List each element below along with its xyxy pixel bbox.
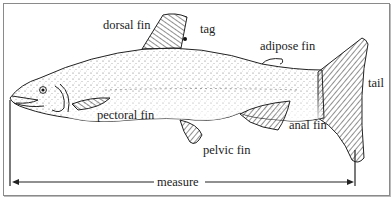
- adipose-fin-shape: [262, 59, 283, 64]
- arrow-left-icon: [12, 179, 19, 185]
- label-dorsal-fin: dorsal fin: [103, 19, 151, 32]
- label-adipose-fin: adipose fin: [260, 40, 315, 53]
- arrow-right-icon: [347, 179, 354, 185]
- tag-dot: [183, 37, 187, 41]
- label-tag: tag: [200, 23, 215, 36]
- label-tail: tail: [368, 77, 384, 90]
- label-pelvic-fin: pelvic fin: [203, 144, 251, 157]
- label-pectoral-fin: pectoral fin: [97, 109, 154, 122]
- label-measure: measure: [157, 176, 199, 189]
- fish-illustration: [0, 0, 392, 198]
- label-anal-fin: anal fin: [289, 119, 327, 132]
- tail-shape: [318, 38, 368, 162]
- pelvic-fin-shape: [180, 120, 202, 143]
